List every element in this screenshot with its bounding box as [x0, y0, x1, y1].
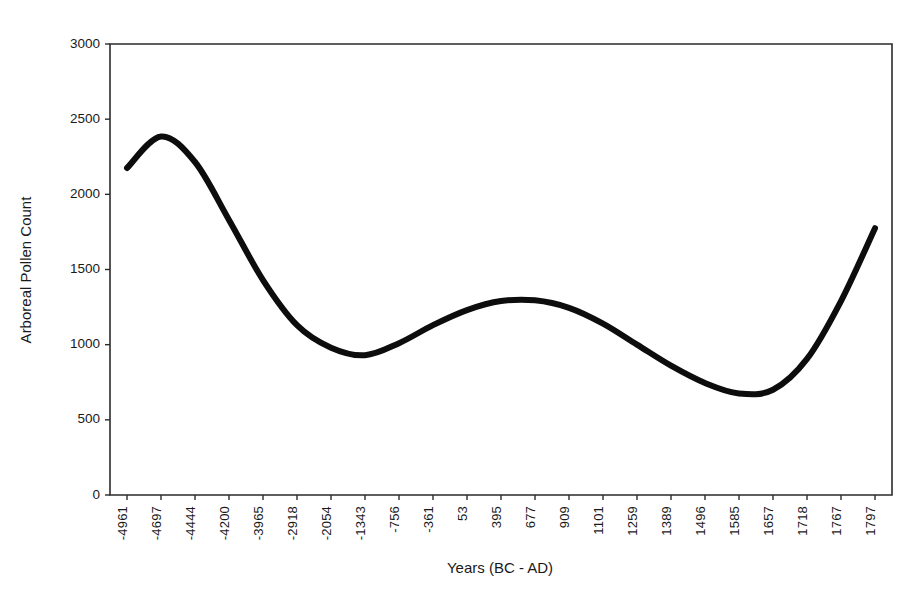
- x-tick-label: 395: [489, 506, 504, 528]
- x-tick-label: 1657: [761, 506, 776, 536]
- x-tick-label: 1101: [591, 506, 606, 535]
- chart-canvas: 050010001500200025003000 -4961-4697-4444…: [0, 0, 919, 600]
- y-tick-label: 2500: [70, 111, 100, 126]
- x-tick-label: 909: [557, 506, 572, 528]
- y-tick-label: 0: [92, 487, 100, 502]
- y-tick-label: 500: [77, 411, 100, 426]
- y-axis-title: Arboreal Pollen Count: [17, 196, 34, 344]
- x-tick-label: 1259: [625, 506, 640, 536]
- x-tick-label: 677: [523, 506, 538, 528]
- y-tick-label: 3000: [70, 36, 100, 51]
- y-tick-label: 2000: [70, 186, 100, 201]
- x-tick-label: 1389: [659, 506, 674, 536]
- x-tick-label: 53: [455, 506, 470, 521]
- x-tick-label: 1718: [795, 506, 810, 536]
- x-tick-label: 1767: [829, 506, 844, 536]
- x-tick-label: -2918: [285, 506, 300, 540]
- x-tick-label: -4200: [217, 506, 232, 540]
- x-tick-label: -4697: [149, 506, 164, 540]
- pollen-count-chart: 050010001500200025003000 -4961-4697-4444…: [0, 0, 919, 600]
- x-tick-label: -756: [387, 506, 402, 533]
- x-tick-label: 1585: [727, 506, 742, 536]
- x-tick-label: -4961: [115, 506, 130, 540]
- y-tick-label: 1500: [70, 261, 100, 276]
- x-tick-label: -1343: [353, 506, 368, 540]
- x-tick-label: 1797: [863, 506, 878, 536]
- x-tick-label: 1496: [693, 506, 708, 536]
- x-tick-label: -4444: [183, 506, 198, 540]
- x-axis-title: Years (BC - AD): [447, 559, 553, 576]
- x-tick-label: -2054: [319, 506, 334, 540]
- y-tick-label: 1000: [70, 336, 100, 351]
- x-tick-label: -361: [421, 506, 436, 533]
- x-tick-label: -3965: [251, 506, 266, 540]
